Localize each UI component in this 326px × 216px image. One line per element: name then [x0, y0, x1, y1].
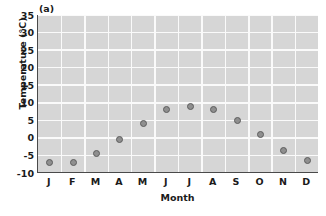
vertical-gridline — [178, 15, 180, 172]
y-axis-tick-label: 30 — [12, 28, 34, 37]
vertical-gridline — [201, 15, 203, 172]
data-point — [163, 106, 170, 113]
data-point — [210, 106, 217, 113]
x-axis-tick-label: S — [224, 176, 248, 188]
y-axis-tick-label: 25 — [12, 46, 34, 55]
data-point — [187, 103, 194, 110]
vertical-gridline — [154, 15, 156, 172]
y-axis-tick-label: 0 — [12, 133, 34, 142]
x-axis-tick-label: J — [177, 176, 201, 188]
data-point — [234, 117, 241, 124]
x-axis-title: Month — [37, 192, 318, 203]
x-axis-tick-label: A — [107, 176, 131, 188]
data-point — [280, 147, 287, 154]
vertical-gridline — [271, 15, 273, 172]
data-point — [140, 120, 147, 127]
temperature-scatter-figure: (a) Temperature (°C) 35302520151050-5-10… — [0, 0, 326, 216]
x-axis-tick-label: M — [130, 176, 154, 188]
data-point — [116, 136, 123, 143]
y-axis-tick-label: 35 — [12, 11, 34, 20]
data-point — [70, 159, 77, 166]
vertical-gridline — [131, 15, 133, 172]
x-axis-tick-label: D — [294, 176, 318, 188]
x-axis-tick-label: M — [84, 176, 108, 188]
data-point — [304, 157, 311, 164]
vertical-gridline — [108, 15, 110, 172]
y-axis-tick-label: 15 — [12, 81, 34, 90]
y-axis-tick-label: 20 — [12, 63, 34, 72]
x-axis-tick-label: J — [154, 176, 178, 188]
vertical-gridline — [295, 15, 297, 172]
y-axis-tick-label: 10 — [12, 98, 34, 107]
plot-area — [37, 15, 318, 173]
vertical-gridline — [225, 15, 227, 172]
data-point — [257, 131, 264, 138]
vertical-gridline — [84, 15, 86, 172]
x-axis-tick-label: A — [201, 176, 225, 188]
x-axis-tick-label: J — [37, 176, 61, 188]
data-point — [46, 159, 53, 166]
x-axis-tick-labels: JFMAMJJASOND — [37, 176, 318, 189]
y-axis-tick-label: 5 — [12, 116, 34, 125]
x-axis-tick-label: N — [271, 176, 295, 188]
y-axis-tick-label: -5 — [12, 151, 34, 160]
x-axis-tick-label: O — [247, 176, 271, 188]
panel-label: (a) — [39, 3, 54, 14]
vertical-gridline — [61, 15, 63, 172]
vertical-gridline — [248, 15, 250, 172]
y-axis-tick-label: -10 — [12, 169, 34, 178]
y-axis-tick-labels: 35302520151050-5-10 — [12, 15, 34, 173]
plot-inner — [38, 15, 318, 172]
x-axis-tick-label: F — [60, 176, 84, 188]
